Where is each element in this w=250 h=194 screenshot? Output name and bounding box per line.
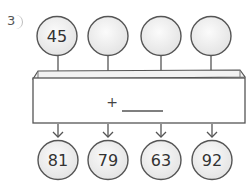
- arrow-down-icon: [103, 124, 113, 137]
- output-value-3: 63: [151, 151, 171, 170]
- output-arrows: [53, 124, 217, 137]
- input-circle-3[interactable]: [141, 17, 181, 56]
- input-circle-4[interactable]: [191, 17, 231, 56]
- input-value-1: 45: [47, 27, 67, 46]
- arrow-down-icon: [53, 124, 63, 137]
- function-machine-box: +: [33, 70, 245, 123]
- input-circle-2[interactable]: [88, 17, 128, 56]
- output-value-4: 92: [202, 151, 222, 170]
- arrow-down-icon: [207, 124, 217, 137]
- output-circle-3: 63: [141, 141, 181, 180]
- input-circle-1: 45: [37, 17, 77, 56]
- output-circle-4: 92: [192, 141, 232, 180]
- arrow-down-icon: [156, 124, 166, 137]
- output-value-2: 79: [98, 151, 118, 170]
- output-value-1: 81: [48, 151, 68, 170]
- operator-plus: +: [106, 94, 118, 110]
- output-circle-2: 79: [88, 141, 128, 180]
- output-circle-1: 81: [38, 141, 78, 180]
- function-machine-diagram: 45 +: [0, 0, 250, 194]
